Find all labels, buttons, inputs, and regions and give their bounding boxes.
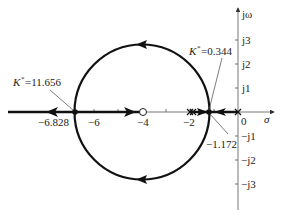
svg-text:K: K: [12, 76, 21, 88]
tick-label-zero: 0: [241, 115, 247, 127]
tick-label-neg6828: −6.828: [38, 116, 69, 128]
svg-text:=11.656: =11.656: [25, 76, 62, 88]
tick-label-j2: j2: [241, 58, 251, 70]
gain-annotation-left: K * =11.656: [12, 75, 62, 88]
svg-text:K: K: [188, 45, 197, 57]
tick-label-neg2: −2: [183, 116, 195, 128]
tick-label-neg6: −6: [88, 116, 100, 128]
jomega-label: jω: [241, 8, 252, 20]
gain-annotation-right: K * =0.344: [188, 44, 232, 57]
tick-label-neg4: −4: [137, 116, 149, 128]
zero-marker-icon: [140, 109, 147, 116]
tick-label-j3: j3: [241, 34, 251, 46]
svg-text:=0.344: =0.344: [201, 45, 232, 57]
tick-label-neg-j1: −j1: [241, 130, 256, 142]
sigma-label: σ: [264, 113, 270, 125]
root-locus-plot: −6.828 −6 −4 −2 0 σ jω j3 j2 j1 −j1 −j2 …: [0, 0, 287, 220]
tick-label-neg-j3: −j3: [241, 178, 256, 190]
tick-label-j1: j1: [241, 82, 251, 94]
breakaway-label-right: −1.172: [206, 138, 237, 150]
tick-label-neg-j2: −j2: [241, 154, 256, 166]
